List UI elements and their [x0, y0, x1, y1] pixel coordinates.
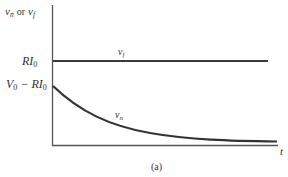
x-axis-label: t — [280, 145, 284, 157]
vn-curve — [53, 86, 277, 142]
tick-label-v0-minus-ri0: V0 − RI0 — [6, 77, 47, 92]
figure-caption: (a) — [151, 161, 162, 173]
y-axis-label: vnorvf — [5, 5, 36, 19]
circuit-response-diagram: vnorvf RI0 V0 − RI0 vf vn t (a) — [0, 0, 288, 177]
vn-label: vn — [115, 109, 123, 122]
tick-label-ri0: RI0 — [21, 54, 37, 69]
vf-label: vf — [118, 46, 125, 59]
